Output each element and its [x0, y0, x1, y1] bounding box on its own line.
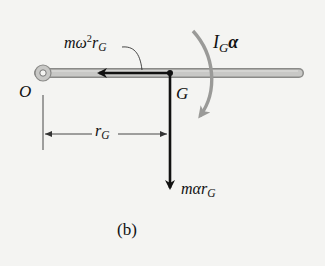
tangential-force-subscript: G: [207, 187, 215, 199]
figure-caption: (b): [117, 221, 137, 238]
distance-label: rG: [95, 123, 110, 142]
tangential-force-label: mαrG: [181, 181, 216, 200]
normal-force-label: mω2rG: [64, 34, 107, 53]
center-of-mass-dot: [167, 70, 173, 76]
pivot-pin-icon: [35, 65, 51, 81]
moment-label: IGα: [213, 33, 238, 55]
distance-subscript: G: [101, 129, 109, 141]
moment-alpha: α: [228, 32, 238, 52]
normal-force-base: mω: [64, 34, 87, 51]
label-leader-line: [122, 47, 142, 70]
moment-subscript: G: [219, 40, 228, 55]
pivot-label: O: [19, 83, 31, 100]
center-of-mass-label: G: [176, 85, 188, 102]
diagram-canvas: [0, 0, 325, 266]
tangential-force-base: mαr: [181, 180, 207, 197]
normal-force-subscript: G: [98, 41, 106, 53]
free-body-diagram: O G mω2rG IGα rG mαrG (b): [0, 0, 325, 266]
